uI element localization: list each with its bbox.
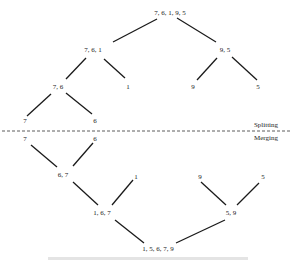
merge-node: 1: [134, 173, 138, 181]
merge-node-result: 1, 5, 6, 7, 9: [142, 245, 174, 253]
merge-edges: [31, 143, 259, 243]
merge-nodes: 7 6 6, 7 1 9 5 1, 6, 7 5, 9 1, 5, 6, 7, …: [23, 135, 265, 253]
split-node: 7, 6, 1: [84, 46, 102, 54]
edge-s1-s3: [66, 58, 86, 79]
merge-sort-diagram: Splitting Merging 7, 6, 1, 9, 5 7, 6, 1 …: [0, 0, 297, 260]
merge-node: 5, 9: [226, 209, 237, 217]
edge-m0-m2: [31, 145, 57, 167]
split-edges: [27, 18, 257, 116]
edge-s3-s7: [27, 94, 51, 116]
edge-s0-s2: [177, 18, 216, 42]
edge-m7-m8: [176, 220, 225, 243]
split-node: 9, 5: [220, 46, 231, 54]
edge-s2-s5: [197, 58, 217, 80]
split-node-leaf: 7: [23, 117, 27, 125]
merge-node: 6, 7: [58, 171, 69, 179]
split-node: 1: [126, 83, 130, 91]
merging-label: Merging: [254, 134, 278, 142]
edge-m2-m6: [73, 182, 98, 205]
merge-node: 9: [198, 173, 202, 181]
merge-node: 5: [261, 173, 265, 181]
edge-m5-m7: [237, 183, 259, 205]
split-node-leaf: 6: [93, 117, 97, 125]
edge-s1-s4: [104, 59, 125, 78]
split-node: 9: [191, 83, 195, 91]
merge-node-leaf: 6: [93, 135, 97, 143]
edge-s0-s1: [113, 19, 157, 42]
split-node: 5: [256, 83, 260, 91]
edge-s2-s6: [232, 57, 257, 80]
split-node: 7, 6: [53, 83, 64, 91]
edge-m3-m6: [112, 180, 133, 205]
edge-m6-m8: [115, 220, 144, 243]
merge-node: 1, 6, 7: [93, 209, 111, 217]
edge-m1-m2: [73, 143, 93, 166]
split-node-root: 7, 6, 1, 9, 5: [154, 9, 186, 17]
edge-s3-s8: [66, 93, 92, 114]
merge-node-leaf: 7: [23, 135, 27, 143]
edge-m4-m7: [201, 182, 226, 205]
splitting-label: Splitting: [254, 121, 279, 129]
